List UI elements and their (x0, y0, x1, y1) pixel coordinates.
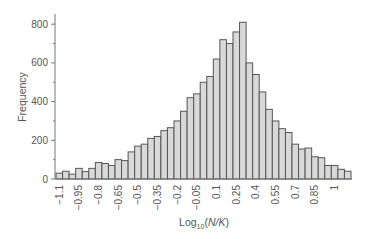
x-tick-label: 0.55 (270, 185, 281, 205)
histogram-bar (181, 111, 188, 179)
histogram-bar (154, 136, 161, 179)
histogram-bar (246, 63, 253, 179)
histogram-bar (63, 171, 70, 179)
histogram-bar (266, 109, 273, 179)
histogram-bar (135, 146, 142, 179)
y-tick-label: 600 (31, 57, 48, 68)
histogram-bar (279, 129, 286, 179)
histogram-bar (331, 165, 338, 179)
histogram-bars (56, 22, 351, 179)
x-tick-label: −0.8 (93, 185, 104, 205)
y-tick-label: 200 (31, 135, 48, 146)
histogram-bar (69, 174, 76, 179)
histogram-bar (167, 128, 174, 179)
histogram-bar (305, 148, 312, 179)
histogram-bar (312, 157, 319, 179)
histogram-bar (240, 22, 247, 179)
histogram-bar (299, 149, 306, 179)
x-tick-label: −0.35 (152, 185, 163, 211)
histogram-bar (285, 133, 292, 179)
x-tick-label: 0.4 (250, 185, 261, 199)
x-tick-label: −0.2 (172, 185, 183, 205)
histogram-bar (194, 94, 201, 179)
histogram-bar (318, 158, 325, 179)
x-tick-label: −0.65 (113, 185, 124, 211)
x-tick-label: 0.7 (290, 185, 301, 199)
histogram-bar (207, 76, 214, 179)
histogram-bar (220, 40, 227, 179)
histogram-bar (174, 121, 181, 179)
x-tick-label: −0.95 (73, 185, 84, 211)
histogram-bar (292, 144, 299, 179)
x-axis-title: Log10(N/K) (179, 216, 229, 230)
histogram-bar (141, 144, 148, 179)
histogram-bar (200, 82, 207, 179)
x-tick-label: −1.1 (54, 185, 65, 205)
histogram-bar (108, 165, 115, 179)
histogram-bar (95, 163, 102, 179)
histogram-bar (128, 152, 135, 179)
histogram-bar (325, 165, 332, 179)
histogram-bar (161, 131, 168, 179)
y-tick-label: 800 (31, 19, 48, 30)
histogram-bar (338, 169, 345, 179)
histogram-bar (102, 164, 109, 179)
histogram-bar (82, 172, 89, 179)
histogram-bar (56, 173, 63, 179)
histogram-bar (272, 121, 279, 179)
x-axis-ticks: −1.1−0.95−0.8−0.65−0.5−0.35−0.2−0.050.10… (54, 185, 340, 211)
x-tick-label: −0.05 (191, 185, 202, 211)
y-tick-label: 400 (31, 96, 48, 107)
histogram-bar (253, 75, 260, 179)
histogram-bar (226, 44, 233, 179)
x-tick-label: 0.1 (211, 185, 222, 199)
histogram-bar (148, 138, 155, 179)
y-axis-ticks: 0200400600800 (31, 19, 55, 185)
histogram-bar (259, 92, 266, 179)
histogram-bar (213, 59, 220, 179)
histogram-bar (187, 98, 194, 179)
histogram-bar (344, 171, 351, 179)
histogram-bar (89, 168, 96, 179)
x-tick-label: 1 (329, 185, 340, 191)
y-tick-label: 0 (42, 174, 48, 185)
histogram-bar (122, 161, 129, 179)
x-tick-label: 0.85 (309, 185, 320, 205)
x-tick-label: 0.25 (231, 185, 242, 205)
y-axis-title: Frequency (16, 71, 28, 121)
histogram-bar (233, 32, 240, 179)
histogram-bar (76, 168, 83, 179)
histogram-bar (115, 160, 122, 179)
x-tick-label: −0.5 (132, 185, 143, 205)
histogram-chart: 0200400600800 −1.1−0.95−0.8−0.65−0.5−0.3… (0, 0, 367, 239)
